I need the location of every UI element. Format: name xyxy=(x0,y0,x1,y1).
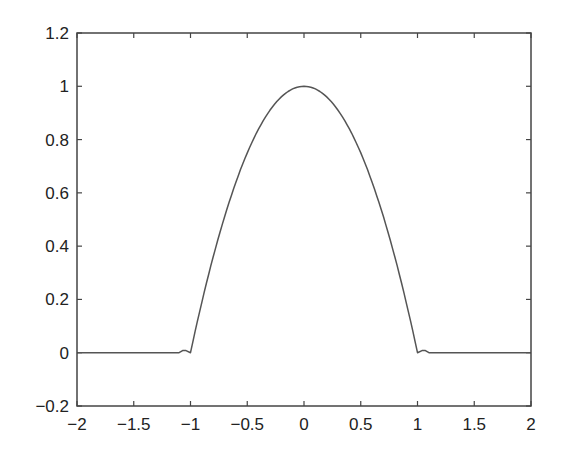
y-axis-tick-labels: −0.200.20.40.60.811.2 xyxy=(35,24,69,416)
x-tick-label: 0.5 xyxy=(349,415,373,434)
x-tick-label: −2 xyxy=(67,415,86,434)
x-tick-label: 1 xyxy=(413,415,422,434)
x-tick-label: 2 xyxy=(526,415,535,434)
y-tick-label: −0.2 xyxy=(35,397,69,416)
y-tick-label: 0 xyxy=(60,344,69,363)
x-tick-label: 0 xyxy=(299,415,308,434)
plot-background xyxy=(77,33,531,406)
y-tick-label: 0.4 xyxy=(45,237,69,256)
y-tick-label: 1.2 xyxy=(45,24,69,43)
x-tick-label: −0.5 xyxy=(230,415,264,434)
x-tick-label: 1.5 xyxy=(462,415,486,434)
x-axis-tick-labels: −2−1.5−1−0.500.511.52 xyxy=(67,415,535,434)
x-tick-label: −1 xyxy=(181,415,200,434)
y-tick-label: 0.6 xyxy=(45,184,69,203)
line-chart: −2−1.5−1−0.500.511.52 −0.200.20.40.60.81… xyxy=(0,0,566,456)
y-tick-label: 1 xyxy=(60,77,69,96)
y-tick-label: 0.2 xyxy=(45,290,69,309)
y-tick-label: 0.8 xyxy=(45,131,69,150)
x-tick-label: −1.5 xyxy=(117,415,151,434)
